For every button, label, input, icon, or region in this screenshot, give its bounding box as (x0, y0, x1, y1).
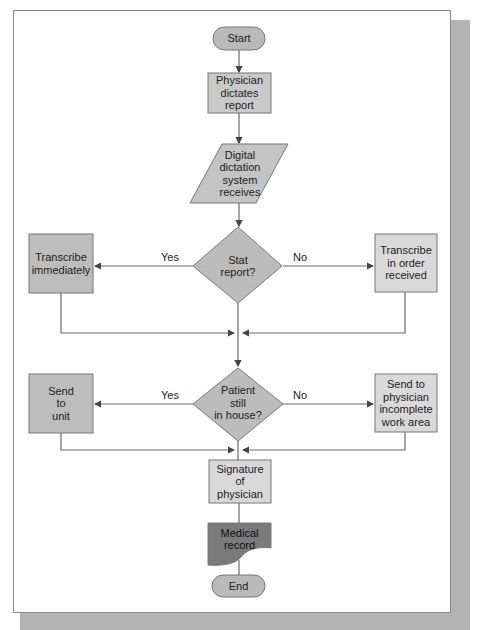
patient-in-house-label: Patient still in house? (200, 380, 276, 426)
connector-unit-merge (61, 433, 234, 450)
send-to-unit-label: Send to unit (29, 374, 93, 433)
medical-record-label: Medical record (208, 524, 271, 554)
inhouse-no-label: No (290, 388, 310, 402)
transcribe-in-order-label: Transcribe in order received (375, 234, 437, 292)
digital-dictation-label: Digital dictation system receives (200, 144, 280, 203)
physician-dictates-label: Physician dictates report (208, 73, 271, 113)
signature-label: Signature of physician (209, 460, 271, 503)
connector-immediate-merge (61, 293, 234, 333)
stat-no-label: No (290, 250, 310, 264)
send-to-physician-label: Send to physician incomplete work area (375, 374, 437, 432)
stat-yes-label: Yes (158, 250, 182, 264)
connector-physician-merge (243, 432, 405, 450)
end-label: End (212, 575, 265, 597)
transcribe-immediately-label: Transcribe immediately (29, 234, 93, 293)
start-label: Start (213, 27, 265, 50)
stat-report-label: Stat report? (205, 245, 271, 287)
connector-inorder-merge (243, 292, 405, 333)
inhouse-yes-label: Yes (158, 388, 182, 402)
